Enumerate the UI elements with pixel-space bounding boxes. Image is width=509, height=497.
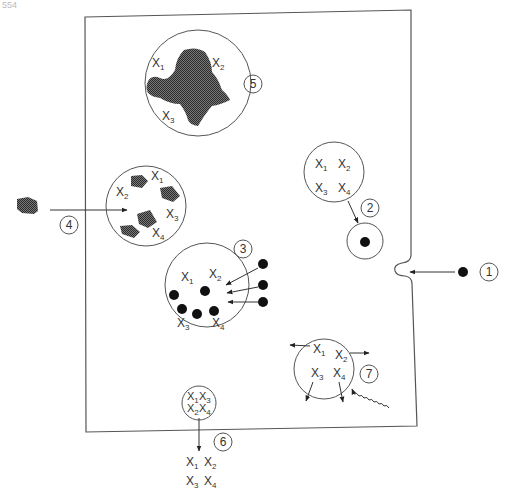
- cell-diagram: 554 X1 X2 X3 5 4 X1 X2 X3 X4 X1 X2 X3 X4: [0, 0, 509, 497]
- label-x2: X2: [335, 348, 348, 364]
- radiation-wave: [352, 389, 389, 408]
- small-vesicle: [347, 223, 383, 259]
- svg-text:7: 7: [366, 367, 373, 381]
- label-x1: X1: [151, 169, 164, 185]
- label-x1: X1: [181, 270, 194, 286]
- svg-text:2: 2: [367, 201, 374, 215]
- step-6-vesicle: X1 X3 X2 X4: [182, 386, 216, 451]
- label-x2: X2: [116, 185, 129, 201]
- svg-text:1: 1: [486, 265, 493, 279]
- step-5-vesicle: X1 X2 X3: [145, 30, 251, 136]
- label-x4: X4: [204, 474, 217, 490]
- label-x4: X4: [333, 366, 346, 382]
- label-x4: X4: [152, 226, 165, 242]
- svg-text:4: 4: [66, 218, 73, 232]
- svg-text:3: 3: [240, 242, 247, 256]
- step-4-vesicle: X1 X2 X3 X4: [106, 166, 186, 246]
- label-x3: X3: [162, 109, 175, 125]
- step-7-number: 7: [360, 365, 378, 383]
- label-x2: X2: [338, 157, 351, 173]
- step-6-number: 6: [214, 433, 232, 451]
- particle: [458, 267, 468, 277]
- label-x1: X1: [315, 157, 328, 173]
- step-1: 1: [410, 263, 498, 281]
- label-x4: X4: [212, 316, 225, 332]
- step-7-vesicle: X1 X2 X3 X4: [290, 339, 389, 408]
- label-x1: X1: [186, 455, 199, 471]
- page-number: 554: [2, 0, 17, 10]
- label-x3: X3: [315, 181, 328, 197]
- label-x3: X3: [186, 474, 199, 490]
- label-x3: X3: [166, 207, 179, 223]
- step-5-number: 5: [244, 75, 262, 93]
- released-particles: X1 X2 X3 X4: [186, 455, 217, 490]
- label-x3: X3: [177, 316, 190, 332]
- step-3-vesicle: X1 X2 X3 X4: [165, 243, 249, 332]
- label-x2: X2: [204, 455, 217, 471]
- label-x1: X1: [152, 56, 165, 72]
- label-x3: X3: [311, 366, 324, 382]
- svg-text:5: 5: [250, 77, 257, 91]
- step-2-number: 2: [361, 199, 379, 217]
- svg-text:6: 6: [220, 435, 227, 449]
- label-x1: X1: [313, 342, 326, 358]
- step-2-vesicle: X1 X2 X3 X4: [304, 142, 364, 223]
- label-x4: X4: [338, 181, 351, 197]
- label-x2: X2: [209, 267, 222, 283]
- external-particle: [17, 197, 38, 214]
- label-x2: X2: [212, 56, 225, 72]
- step-4: 4: [17, 197, 127, 234]
